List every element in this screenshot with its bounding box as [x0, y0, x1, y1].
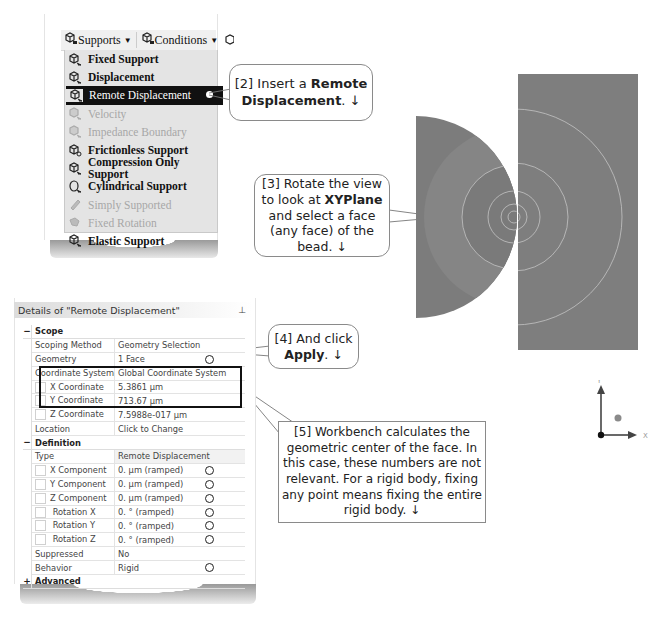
callout-anchor-ring: [205, 355, 214, 364]
supports-icon: [64, 32, 78, 49]
callout-anchor-dot: [206, 91, 213, 98]
callout-step-5: [5] Workbench calculates the geometric c…: [278, 421, 486, 523]
velocity-icon: [69, 107, 82, 120]
callout-anchor-ring: [205, 508, 214, 517]
parameter-checkbox[interactable]: [35, 520, 46, 531]
toolbar-divider: [136, 32, 137, 48]
row-type: Type Remote Displacement: [23, 450, 245, 464]
menu-item-impedance-boundary[interactable]: Impedance Boundary: [65, 123, 217, 141]
callout-anchor-ring: [205, 563, 214, 572]
menu-item-fixed-support[interactable]: Fixed Support: [65, 50, 217, 68]
row-rotation-z: Rotation Z 0. ° (ramped): [23, 533, 245, 547]
graphics-viewport[interactable]: [400, 20, 669, 350]
details-table: − Scope Scoping Method Geometry Selectio…: [23, 325, 245, 589]
callout-anchor-ring: [205, 466, 214, 475]
parameter-checkbox[interactable]: [35, 507, 46, 518]
menu-item-cylindrical-support[interactable]: Cylindrical Support: [65, 177, 217, 195]
row-suppressed: Suppressed No: [23, 547, 245, 561]
parameter-checkbox[interactable]: [35, 395, 46, 406]
cylindrical-support-icon: [69, 180, 82, 193]
details-title: Details of "Remote Displacement": [18, 305, 180, 316]
elastic-support-icon: [69, 234, 82, 247]
menu-item-remote-displacement[interactable]: Remote Displacement: [66, 86, 223, 104]
chevron-down-icon: ▼: [210, 36, 218, 45]
y-axis-label: Y: [596, 380, 602, 385]
category-scope: − Scope: [23, 325, 245, 338]
remote-displacement-icon: [66, 89, 83, 102]
menu-item-fixed-rotation[interactable]: Fixed Rotation: [65, 214, 217, 232]
environment-toolbar: Supports ▼ Conditions ▼: [61, 30, 216, 51]
parameter-checkbox[interactable]: [35, 465, 46, 476]
row-location: Location Click to Change: [23, 422, 245, 436]
parameter-checkbox[interactable]: [35, 493, 46, 504]
row-z-component: Z Component 0. µm (ramped): [23, 491, 245, 505]
row-y-coordinate: Y Coordinate 713.67 µm: [23, 394, 245, 408]
simply-supported-icon: [69, 198, 82, 211]
callout-anchor-ring: [205, 521, 214, 530]
axis-triad: Y X: [580, 380, 660, 450]
impedance-boundary-icon: [69, 125, 82, 138]
row-geometry: Geometry 1 Face: [23, 352, 245, 366]
row-z-coordinate: Z Coordinate 7.5988e-017 µm: [23, 408, 245, 422]
row-x-component: X Component 0. µm (ramped): [23, 463, 245, 477]
pin-icon[interactable]: ⊥: [238, 305, 246, 315]
fixed-rotation-icon: [69, 216, 82, 229]
menu-item-displacement[interactable]: Displacement: [65, 68, 217, 86]
callout-anchor-ring: [205, 480, 214, 489]
callout-step-3: [3] Rotate the view to look at XYPlane a…: [254, 174, 390, 257]
chevron-down-icon: ▼: [124, 36, 132, 45]
supports-label: Supports: [78, 33, 121, 48]
conditions-icon: [141, 32, 155, 49]
row-y-component: Y Component 0. µm (ramped): [23, 477, 245, 491]
supports-dropdown[interactable]: Supports ▼: [61, 32, 135, 49]
x-axis-label: X: [643, 432, 648, 440]
compression-only-support-icon: [69, 162, 82, 175]
row-behavior: Behavior Rigid: [23, 561, 245, 575]
category-definition: − Definition: [23, 436, 245, 450]
collapse-toggle[interactable]: −: [23, 436, 32, 450]
row-coordinate-system: Coordinate System Global Coordinate Syst…: [23, 366, 245, 380]
next-toolbar-icon[interactable]: [221, 34, 237, 47]
parameter-checkbox[interactable]: [35, 479, 46, 490]
callout-step-4: [4] And click Apply. ↓: [268, 324, 359, 369]
parameter-checkbox[interactable]: [35, 534, 46, 545]
parameter-checkbox[interactable]: [35, 382, 46, 393]
collapse-toggle[interactable]: −: [23, 325, 32, 338]
callout-anchor-ring: [205, 535, 214, 544]
menu-item-simply-supported[interactable]: Simply Supported: [65, 196, 217, 214]
row-rotation-y: Rotation Y 0. ° (ramped): [23, 519, 245, 533]
frictionless-support-icon: [69, 144, 82, 157]
category-advanced: + Advanced: [23, 575, 245, 589]
row-scoping-method: Scoping Method Geometry Selection: [23, 338, 245, 352]
row-rotation-x: Rotation X 0. ° (ramped): [23, 505, 245, 519]
details-panel-header: Details of "Remote Displacement" ⊥: [14, 302, 252, 318]
menu-item-compression-only-support[interactable]: Compression Only Support: [65, 159, 217, 177]
expand-toggle[interactable]: +: [23, 575, 32, 589]
fixed-support-icon: [69, 53, 82, 66]
conditions-label: Conditions: [155, 33, 208, 48]
parameter-checkbox[interactable]: [35, 409, 46, 420]
menu-item-elastic-support[interactable]: Elastic Support: [65, 232, 217, 250]
displacement-icon: [69, 71, 82, 84]
menu-item-velocity[interactable]: Velocity: [65, 105, 217, 123]
conditions-dropdown[interactable]: Conditions ▼: [138, 32, 222, 49]
row-x-coordinate: X Coordinate 5.3861 µm: [23, 380, 245, 394]
supports-menu: Fixed Support Displacement Remote Displa…: [64, 50, 218, 233]
callout-anchor-ring: [205, 494, 214, 503]
callout-step-2: [2] Insert a Remote Displacement. ↓: [229, 64, 373, 121]
